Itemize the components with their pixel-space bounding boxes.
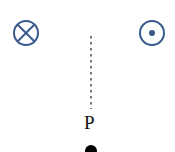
diagram-canvas: P bbox=[0, 0, 175, 152]
point-p-dot bbox=[85, 145, 97, 152]
wire-into-page-icon bbox=[14, 21, 38, 45]
wire-out-of-page-icon bbox=[140, 21, 164, 45]
point-label: P bbox=[84, 112, 95, 134]
